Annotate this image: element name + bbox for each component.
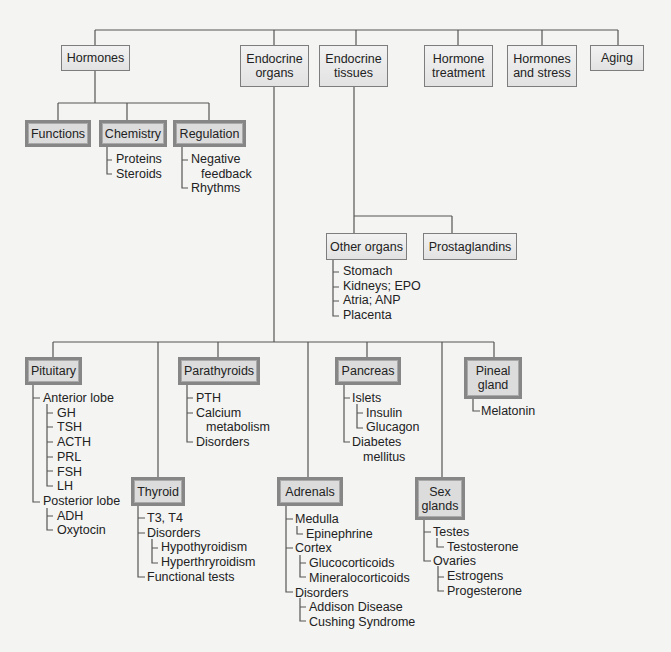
pancreas-box[interactable]: Pancreas [335,357,401,385]
list-item: Proteins [116,152,162,167]
hormones-box[interactable]: Hormones [61,45,130,71]
pineal-gland-box[interactable]: Pineal gland [464,357,522,399]
list-item: Steroids [116,167,162,182]
list-item: Islets [352,391,420,406]
pituitary-box[interactable]: Pituitary [25,357,82,385]
regulation-items: Negative feedback Rhythms [191,152,252,196]
list-item: Mineralocorticoids [295,571,415,586]
sex-glands-items: Testes Testosterone Ovaries Estrogens Pr… [433,525,522,599]
list-item: Ovaries [433,554,522,569]
list-item: Stomach [343,264,421,279]
list-item: PRL [43,450,120,465]
list-item: Placenta [343,308,421,323]
endocrine-organs-box[interactable]: Endocrine organs [240,45,309,87]
hormones-and-stress-box[interactable]: Hormones and stress [507,45,577,87]
functions-box[interactable]: Functions [25,120,91,147]
list-item: Oxytocin [43,523,120,538]
list-item: Atria; ANP [343,293,421,308]
chemistry-items: Proteins Steroids [116,152,162,181]
list-item: Melatonin [481,404,535,419]
list-item: Estrogens [433,569,522,584]
list-item: Epinephrine [295,527,415,542]
list-item: Rhythms [191,181,252,196]
list-item: Cortex [295,541,415,556]
thyroid-box[interactable]: Thyroid [131,477,185,506]
thyroid-items: T3, T4 Disorders Hypothyroidism Hyperthr… [147,511,255,585]
list-item: Disorders [196,435,270,450]
pituitary-items: Anterior lobe GH TSH ACTH PRL FSH LH Pos… [43,391,120,538]
list-item: Disorders [295,586,415,601]
sex-glands-box[interactable]: Sex glands [415,477,465,520]
list-item: T3, T4 [147,511,255,526]
list-item: mellitus [352,450,420,465]
list-item: LH [43,479,120,494]
list-item: Functional tests [147,570,255,585]
list-item: PTH [196,391,270,406]
other-organs-box[interactable]: Other organs [326,233,407,260]
list-item: Medulla [295,512,415,527]
list-item: Calcium [196,406,270,421]
connector-tissues [354,87,452,233]
list-item: Disorders [147,526,255,541]
list-item: ACTH [43,435,120,450]
adrenals-box[interactable]: Adrenals [277,477,343,506]
parathyroids-items: PTH Calcium metabolism Disorders [196,391,270,450]
list-item: Diabetes [352,435,420,450]
pineal-items: Melatonin [481,404,535,419]
connector-hormones [58,70,209,120]
adrenals-items: Medulla Epinephrine Cortex Glucocorticoi… [295,512,415,630]
list-item: Kidneys; EPO [343,279,421,294]
list-item: Glucocorticoids [295,556,415,571]
list-item: FSH [43,465,120,480]
endocrine-tissues-box[interactable]: Endocrine tissues [319,45,388,87]
pancreas-items: Islets Insulin Glucagon Diabetes mellitu… [352,391,420,465]
list-item: Hypothyroidism [147,540,255,555]
list-item: metabolism [196,420,270,435]
list-item: Cushing Syndrome [295,615,415,630]
aging-box[interactable]: Aging [590,45,644,71]
list-item: Testes [433,525,522,540]
prostaglandins-box[interactable]: Prostaglandins [423,233,517,260]
list-item: Glucagon [352,420,420,435]
list-item: Insulin [352,406,420,421]
list-item: Anterior lobe [43,391,120,406]
list-item: GH [43,406,120,421]
parathyroids-box[interactable]: Parathyroids [178,357,260,385]
regulation-box[interactable]: Regulation [173,120,246,147]
list-item: TSH [43,420,120,435]
list-item: ADH [43,509,120,524]
other-organs-items: Stomach Kidneys; EPO Atria; ANP Placenta [343,264,421,323]
list-item: Testosterone [433,540,522,555]
chemistry-box[interactable]: Chemistry [99,120,167,147]
list-item: Posterior lobe [43,494,120,509]
list-item: feedback [191,167,252,182]
list-item: Hyperthryroidism [147,555,255,570]
list-item: Addison Disease [295,600,415,615]
hormone-treatment-box[interactable]: Hormone treatment [424,45,493,87]
list-item: Negative [191,152,252,167]
list-item: Progesterone [433,584,522,599]
